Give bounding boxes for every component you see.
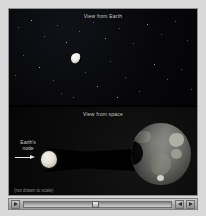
step-back-icon [178,202,182,206]
moon-lit-region [71,53,81,64]
panel-title-view-from-earth: View from Earth [9,13,197,20]
timeline-scrubber[interactable] [23,201,172,208]
play-icon [14,202,18,206]
play-button[interactable] [11,200,20,209]
scrubber-thumb[interactable] [92,201,99,208]
step-forward-icon [189,202,193,206]
playback-control-bar[interactable] [8,198,198,210]
step-forward-button[interactable] [186,200,195,209]
node-label: Earth's node [13,139,43,151]
scale-disclaimer: (not drawn to scale) [14,188,54,194]
moon-sphere [41,151,57,168]
eclipse-applet: View from Earth View from space [0,0,206,216]
panel-view-from-space: View from space Earth's node (not drawn … [9,107,197,196]
animation-stage: View from Earth View from space [8,8,198,196]
panel-title-view-from-space: View from space [9,111,197,118]
moon-eclipsed-disc [71,53,82,64]
step-back-button[interactable] [175,200,184,209]
node-arrow-icon [15,155,37,160]
starfield [9,9,197,105]
earth-globe [131,123,191,185]
panel-view-from-earth: View from Earth [9,9,197,105]
